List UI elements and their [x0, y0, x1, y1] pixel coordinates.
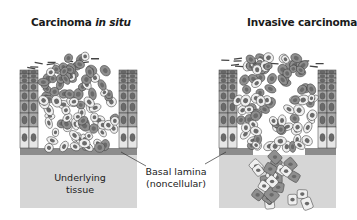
cell-nucleus — [273, 155, 277, 159]
cell-nucleus — [121, 84, 126, 89]
cell-nucleus — [31, 134, 36, 142]
basal-lamina — [305, 148, 336, 155]
cell-nucleus — [320, 93, 325, 100]
cell-nucleus — [31, 103, 36, 111]
underlying-tissue-label: Underlying tissue — [45, 172, 115, 195]
shed-cell-flake — [47, 64, 55, 65]
cell-nucleus — [31, 75, 36, 78]
cell-nucleus — [256, 168, 260, 172]
cell-nucleus — [305, 202, 309, 206]
cell-nucleus — [31, 79, 36, 82]
cell-nucleus — [130, 75, 135, 78]
shed-cell-flake — [231, 64, 239, 65]
cell-nucleus — [230, 75, 235, 78]
cell-nucleus — [320, 134, 325, 142]
cell-nucleus — [270, 180, 274, 184]
cell-nucleus — [329, 103, 334, 111]
cell-nucleus — [31, 116, 36, 124]
cell-nucleus — [130, 116, 135, 124]
cell-nucleus — [22, 84, 27, 89]
cell-nucleus — [320, 75, 325, 78]
cell-nucleus — [292, 175, 296, 179]
tissue-label-line2: tissue — [45, 184, 115, 196]
cell-nucleus — [329, 71, 334, 74]
cell-nucleus — [329, 84, 334, 89]
cell-nucleus — [130, 71, 135, 74]
cell-nucleus — [329, 79, 334, 82]
cell-nucleus — [221, 103, 226, 111]
cell-nucleus — [269, 193, 273, 197]
cell-nucleus — [130, 134, 135, 142]
cell-nucleus — [121, 103, 126, 111]
tissue-label-line1: Underlying — [45, 172, 115, 184]
cell-nucleus — [320, 116, 325, 124]
basal-lamina — [219, 148, 253, 155]
cell-nucleus — [121, 134, 126, 142]
cell-nucleus — [130, 93, 135, 100]
cell-nucleus — [31, 71, 36, 74]
cell-nucleus — [284, 169, 288, 173]
cell-nucleus — [329, 93, 334, 100]
cell-nucleus — [221, 79, 226, 82]
cell-nucleus — [31, 93, 36, 100]
cell-nucleus — [221, 134, 226, 142]
lamina-label-line1: Basal lamina — [144, 166, 208, 178]
cell-nucleus — [320, 71, 325, 74]
cell-nucleus — [320, 79, 325, 82]
cell-nucleus — [221, 93, 226, 100]
cell-nucleus — [288, 162, 292, 166]
lamina-label-line2: (noncellular) — [144, 178, 208, 190]
cell-nucleus — [276, 185, 280, 189]
cell-nucleus — [320, 103, 325, 111]
shed-cell-flake — [310, 66, 318, 67]
cell-nucleus — [230, 84, 235, 89]
cell-nucleus — [262, 184, 266, 188]
cell-nucleus — [329, 75, 334, 78]
shed-cell-flake — [234, 58, 242, 59]
cell-nucleus — [121, 93, 126, 100]
shed-cell-flake — [27, 67, 35, 68]
cell-nucleus — [221, 84, 226, 89]
cell-nucleus — [121, 79, 126, 82]
cell-nucleus — [22, 134, 27, 142]
cell-nucleus — [130, 84, 135, 89]
cell-nucleus — [22, 103, 27, 111]
cell-nucleus — [31, 84, 36, 89]
cell-nucleus — [221, 71, 226, 74]
cell-nucleus — [121, 75, 126, 78]
cell-nucleus — [255, 193, 259, 197]
cell-nucleus — [121, 71, 126, 74]
cell-nucleus — [230, 116, 235, 124]
panel-invasive-carcinoma — [219, 51, 336, 211]
cell-nucleus — [268, 167, 272, 171]
cell-nucleus — [130, 79, 135, 82]
cell-nucleus — [221, 116, 226, 124]
cell-nucleus — [22, 71, 27, 74]
shed-cell-flake — [35, 62, 43, 63]
cell-nucleus — [22, 116, 27, 124]
cell-nucleus — [221, 75, 226, 78]
cell-nucleus — [329, 116, 334, 124]
cell-nucleus — [121, 116, 126, 124]
cell-nucleus — [300, 192, 304, 196]
cell-nucleus — [290, 198, 294, 202]
cell-nucleus — [230, 79, 235, 82]
cell-nucleus — [22, 75, 27, 78]
cell-nucleus — [130, 103, 135, 111]
cell-nucleus — [329, 134, 334, 142]
shed-cell-flake — [235, 66, 243, 67]
cell-nucleus — [230, 71, 235, 74]
cell-nucleus — [320, 84, 325, 89]
cell-nucleus — [230, 134, 235, 142]
cell-nucleus — [22, 79, 27, 82]
basal-lamina-label: Basal lamina (noncellular) — [144, 166, 208, 189]
cell-nucleus — [22, 93, 27, 100]
cell-nucleus — [244, 125, 248, 130]
